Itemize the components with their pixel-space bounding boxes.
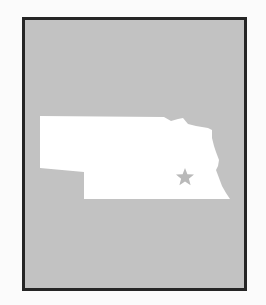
state-map — [0, 0, 266, 305]
